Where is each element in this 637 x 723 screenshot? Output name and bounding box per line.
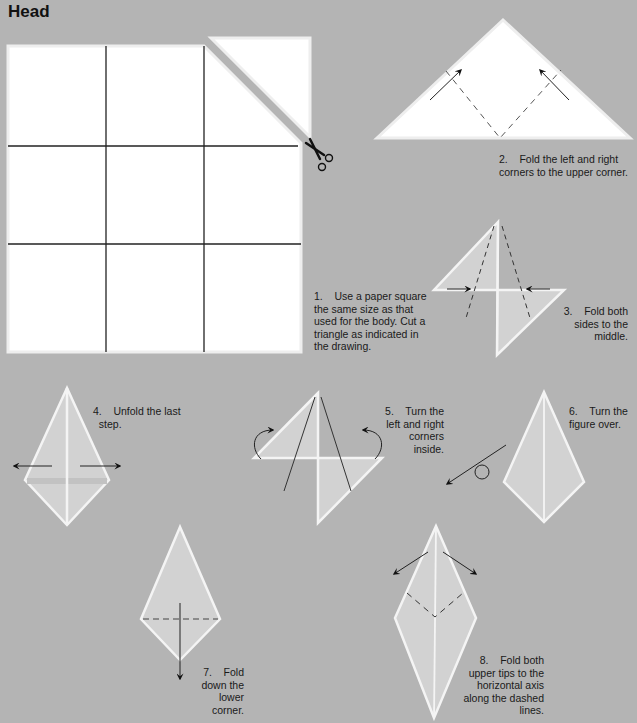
- step-3-caption: 3. Fold both sides to the middle.: [532, 305, 628, 343]
- step-7-caption: 7. Fold down the lower corner.: [188, 666, 244, 716]
- grid-square-icon: [8, 46, 301, 352]
- step-5-caption: 5. Turn the left and right corners insid…: [360, 405, 444, 455]
- step-6-caption: 6. Turn the figure over.: [569, 405, 628, 430]
- triangle-icon: [377, 20, 630, 138]
- turn-over-arrow-icon: [447, 445, 506, 484]
- instruction-diagrams: [0, 0, 637, 723]
- step-8-caption: 8. Fold both upper tips to the horizonta…: [452, 654, 544, 717]
- step-2-caption: 2. Fold the left and right corners to th…: [499, 153, 628, 178]
- step-1-caption: 1. Use a paper square the same size as t…: [314, 290, 427, 353]
- scissors-icon: [306, 139, 333, 171]
- kite-icon: [141, 527, 220, 679]
- step-4-caption: 4. Unfold the last step.: [93, 405, 181, 430]
